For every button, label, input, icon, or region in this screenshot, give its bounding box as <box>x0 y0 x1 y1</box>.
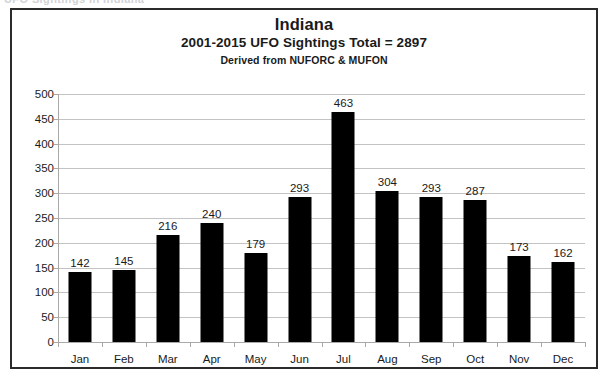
bar[interactable] <box>552 262 575 342</box>
chart-title: Indiana <box>12 14 596 34</box>
cropped-text-sliver-label: UFO Sightings in Indiana <box>4 0 144 5</box>
y-axis-tick-label: 450 <box>14 113 54 125</box>
x-axis-tick-mark <box>453 342 454 347</box>
bar-slot: 463 <box>322 94 366 342</box>
x-axis-tick-label: Feb <box>102 352 146 366</box>
bar-value-label: 240 <box>202 208 221 221</box>
chart-subtitle: 2001-2015 UFO Sightings Total = 2897 <box>12 34 596 52</box>
x-axis-tick-mark <box>190 342 191 347</box>
x-axis-tick-label: Sep <box>409 352 453 366</box>
bar-value-label: 304 <box>378 176 397 189</box>
plot-area: 500450400350300250200150100500 142145216… <box>58 94 585 342</box>
bar-value-label: 142 <box>70 257 89 270</box>
x-axis-tick-mark <box>585 342 586 347</box>
bar-value-label: 287 <box>466 185 485 198</box>
y-axis-tick-label: 0 <box>14 336 54 348</box>
chart-title-block: Indiana 2001-2015 UFO Sightings Total = … <box>12 14 596 68</box>
y-axis-tick-mark <box>54 243 58 244</box>
bar-slot: 179 <box>234 94 278 342</box>
bars-layer: 142145216240179293463304293287173162 <box>58 94 585 342</box>
x-axis-tick-mark <box>322 342 323 347</box>
bar-slot: 293 <box>409 94 453 342</box>
bar-slot: 145 <box>102 94 146 342</box>
y-axis-tick-labels: 500450400350300250200150100500 <box>14 94 54 342</box>
bar[interactable] <box>288 197 311 342</box>
bar[interactable] <box>376 191 399 342</box>
x-axis-tick-label: Aug <box>365 352 409 366</box>
y-axis-tick-label: 150 <box>14 262 54 274</box>
x-axis-tick-mark <box>278 342 279 347</box>
bar-slot: 142 <box>58 94 102 342</box>
bar[interactable] <box>420 197 443 342</box>
y-axis-tick-mark <box>54 317 58 318</box>
x-axis-tick-label: Nov <box>497 352 541 366</box>
x-axis-tick-mark <box>365 342 366 347</box>
x-axis-tick-mark <box>102 342 103 347</box>
bar-value-label: 293 <box>290 182 309 195</box>
y-axis-tick-mark <box>54 218 58 219</box>
bar-slot: 304 <box>365 94 409 342</box>
bar[interactable] <box>464 200 487 342</box>
bar[interactable] <box>508 256 531 342</box>
y-axis-tick-label: 200 <box>14 237 54 249</box>
bar-value-label: 145 <box>114 255 133 268</box>
x-axis-tick-mark <box>58 342 59 347</box>
y-axis-tick-label: 100 <box>14 286 54 298</box>
x-axis-tick-mark <box>497 342 498 347</box>
y-axis-tick-label: 50 <box>14 311 54 323</box>
bar-slot: 287 <box>453 94 497 342</box>
bar[interactable] <box>200 223 223 342</box>
x-axis-tick-mark <box>234 342 235 347</box>
cropped-text-sliver: UFO Sightings in Indiana <box>0 0 610 7</box>
y-axis-tick-label: 350 <box>14 162 54 174</box>
y-axis-tick-mark <box>54 94 58 95</box>
y-axis-tick-label: 500 <box>14 88 54 100</box>
y-axis-tick-mark <box>54 268 58 269</box>
bar[interactable] <box>156 235 179 342</box>
x-axis-tick-label: Jul <box>322 352 366 366</box>
bar-slot: 173 <box>497 94 541 342</box>
x-axis-tick-label: Jan <box>58 352 102 366</box>
bar-value-label: 293 <box>422 182 441 195</box>
bar-value-label: 463 <box>334 97 353 110</box>
chart-frame: Indiana 2001-2015 UFO Sightings Total = … <box>10 8 598 369</box>
bar[interactable] <box>112 270 135 342</box>
x-axis-tick-label: May <box>234 352 278 366</box>
y-axis-tick-label: 250 <box>14 212 54 224</box>
bar-slot: 162 <box>541 94 585 342</box>
y-axis-tick-label: 300 <box>14 187 54 199</box>
bar-value-label: 179 <box>246 238 265 251</box>
bar-slot: 240 <box>190 94 234 342</box>
x-axis-tick-mark <box>146 342 147 347</box>
y-axis-tick-mark <box>54 144 58 145</box>
y-axis-tick-mark <box>54 168 58 169</box>
bar[interactable] <box>68 272 91 342</box>
x-axis-tick-label: Mar <box>146 352 190 366</box>
x-axis-tick-label: Oct <box>453 352 497 366</box>
bar-value-label: 162 <box>553 247 572 260</box>
x-axis-tick-label: Dec <box>541 352 585 366</box>
x-axis-tick-mark <box>541 342 542 347</box>
chart-source-note: Derived from NUFORC & MUFON <box>12 52 596 68</box>
x-axis-tick-label: Apr <box>190 352 234 366</box>
bar-slot: 293 <box>278 94 322 342</box>
y-axis-tick-mark <box>54 292 58 293</box>
y-axis-tick-mark <box>54 193 58 194</box>
y-axis-tick-label: 400 <box>14 138 54 150</box>
bar[interactable] <box>244 253 267 342</box>
x-axis-tick-label: Jun <box>278 352 322 366</box>
bar-value-label: 216 <box>158 220 177 233</box>
bar-slot: 216 <box>146 94 190 342</box>
bar-value-label: 173 <box>510 241 529 254</box>
bar[interactable] <box>332 112 355 342</box>
x-axis-tick-mark <box>409 342 410 347</box>
y-axis-tick-mark <box>54 119 58 120</box>
